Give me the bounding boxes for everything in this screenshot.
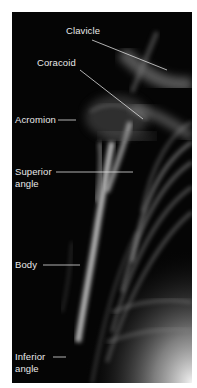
label-acromion: Acromion: [15, 114, 56, 126]
label-superior-angle-line2: angle: [15, 178, 52, 190]
label-clavicle: Clavicle: [66, 25, 100, 37]
label-inferior-angle: Inferior angle: [15, 351, 45, 375]
label-inferior-angle-line1: Inferior: [15, 351, 45, 363]
label-inferior-angle-line2: angle: [15, 363, 45, 375]
label-coracoid: Coracoid: [37, 57, 76, 69]
label-superior-angle-line1: Superior: [15, 166, 52, 178]
label-superior-angle: Superior angle: [15, 166, 52, 190]
label-body: Body: [15, 259, 37, 271]
